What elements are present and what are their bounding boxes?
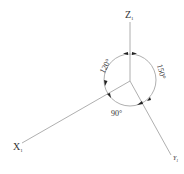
angle-label-150: 150° bbox=[155, 63, 168, 80]
x-axis-label: X1 bbox=[13, 141, 23, 153]
arrow-bottom-right-icon bbox=[137, 101, 143, 105]
y-axis-label: Y1 bbox=[173, 155, 178, 163]
arrow-marks bbox=[104, 52, 151, 105]
angle-label-90: 90° bbox=[111, 109, 122, 118]
z-axis-label: Z1 bbox=[125, 9, 134, 21]
axonometric-axes-diagram: Z1 X1 Y1 120° 150° 90° bbox=[0, 0, 184, 174]
angle-label-120: 120° bbox=[98, 57, 113, 75]
y-axis-line bbox=[130, 81, 171, 155]
